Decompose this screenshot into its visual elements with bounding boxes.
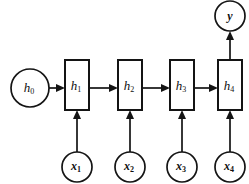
node-h3-subscript: 3 [182,85,186,94]
node-x2-base: x [123,159,130,173]
edge-h1-to-h2 [89,84,118,92]
node-x3[interactable]: x3 [167,152,197,182]
svg-text:y: y [225,9,233,23]
node-x4-base: x [223,159,230,173]
node-h3[interactable]: h3 [170,60,194,110]
node-x1-subscript: 1 [77,165,81,174]
diagram-canvas: h0 h1 h2 h3 h4 [0,0,249,184]
edge-x3-to-h3 [178,110,186,152]
edge-h2-to-h3 [142,84,170,92]
node-y[interactable]: y [215,1,245,31]
node-h0-subscript: 0 [30,87,34,96]
node-x2-subscript: 2 [130,165,134,174]
node-h0[interactable]: h0 [11,69,49,107]
node-h2-subscript: 2 [130,85,134,94]
node-h4[interactable]: h4 [218,60,242,110]
node-h1-subscript: 1 [77,85,81,94]
node-x2[interactable]: x2 [115,152,145,182]
edge-h0-to-h1 [49,84,65,92]
node-h2[interactable]: h2 [118,60,142,110]
node-x4-subscript: 4 [230,165,234,174]
node-x1[interactable]: x1 [62,152,92,182]
node-x3-base: x [175,159,182,173]
node-y-base: y [225,9,233,23]
node-x4[interactable]: x4 [215,152,245,182]
edge-h3-to-h4 [194,84,218,92]
node-h1[interactable]: h1 [65,60,89,110]
node-h4-subscript: 4 [230,85,234,94]
edge-h4-to-y [226,31,234,60]
edge-x1-to-h1 [73,110,81,152]
edge-x2-to-h2 [126,110,134,152]
node-x3-subscript: 3 [182,165,186,174]
edge-x4-to-h4 [226,110,234,152]
rnn-unrolled-diagram: h0 h1 h2 h3 h4 [0,0,249,184]
node-x1-base: x [70,159,77,173]
